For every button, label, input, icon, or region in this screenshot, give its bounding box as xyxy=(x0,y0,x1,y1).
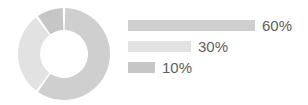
legend: 60% 30% 10% xyxy=(128,15,308,95)
donut-chart xyxy=(17,7,111,101)
legend-bar-10 xyxy=(128,62,155,73)
legend-bar-60 xyxy=(128,20,255,31)
donut-slice-30[interactable] xyxy=(18,18,49,91)
legend-label-10: 10% xyxy=(162,60,192,75)
legend-label-60: 60% xyxy=(262,18,292,33)
legend-bar-30 xyxy=(128,41,191,52)
legend-row[interactable]: 10% xyxy=(128,57,308,78)
chart-figure: 60% 30% 10% xyxy=(0,0,308,105)
legend-row[interactable]: 60% xyxy=(128,15,308,36)
legend-row[interactable]: 30% xyxy=(128,36,308,57)
donut-slice-group xyxy=(18,8,110,100)
legend-label-30: 30% xyxy=(198,39,228,54)
donut-chart-svg xyxy=(17,7,111,101)
